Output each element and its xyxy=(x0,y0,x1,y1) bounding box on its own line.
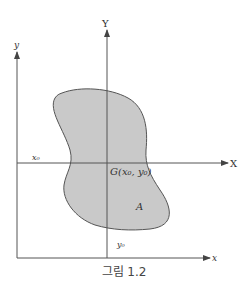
x0-label: x₀ xyxy=(32,153,41,162)
Y-axis-label: Y xyxy=(101,18,109,29)
X-axis-label: X xyxy=(230,158,238,169)
figure-caption: 그림 1.2 xyxy=(0,262,248,279)
centroid-label: G(x₀, y₀) xyxy=(110,166,152,177)
y-axis-label: y xyxy=(13,40,20,50)
area-shape xyxy=(53,89,169,230)
y0-label: y₀ xyxy=(116,240,126,249)
area-label: A xyxy=(135,201,143,212)
centroid-diagram: Y y X x x₀ y₀ G(x₀, y₀) A xyxy=(0,0,248,299)
